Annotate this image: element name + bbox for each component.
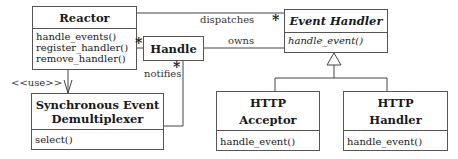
owns-multiplicity: *: [135, 37, 142, 49]
title-line: Demultiplexer: [52, 112, 144, 126]
class-reactor[interactable]: Reactor handle_events() register_handler…: [32, 6, 137, 70]
operation: handle_events(): [36, 31, 133, 42]
class-event-handler-operations: handle_event(): [285, 33, 387, 48]
class-http-handler-title: HTTP Handler: [344, 92, 447, 131]
title-line: Synchronous Event: [36, 98, 160, 112]
class-sync-event-demultiplexer[interactable]: Synchronous Event Demultiplexer select(): [31, 93, 164, 150]
title-line: HTTP: [250, 96, 286, 110]
class-http-handler[interactable]: HTTP Handler handle_event(): [343, 91, 448, 151]
class-handle[interactable]: Handle: [143, 36, 204, 61]
class-reactor-title: Reactor: [33, 7, 136, 29]
class-event-handler-title: Event Handler: [285, 10, 387, 33]
class-http-acceptor-operations: handle_event(): [217, 131, 319, 149]
dispatches-multiplicity: *: [272, 14, 279, 26]
operation: select(): [35, 134, 160, 145]
operation: handle_event(): [347, 136, 444, 147]
class-handle-title: Handle: [144, 37, 203, 60]
class-sync-demux-operations: select(): [32, 130, 163, 147]
owns-label: owns: [228, 35, 254, 46]
class-http-acceptor-title: HTTP Acceptor: [217, 92, 319, 131]
title-line: HTTP: [377, 96, 413, 110]
title-line: Handler: [369, 113, 421, 127]
operation: remove_handler(): [36, 53, 133, 64]
dispatches-label: dispatches: [200, 14, 254, 25]
title-line: Acceptor: [239, 113, 296, 127]
inheritance-triangle: [327, 53, 341, 65]
notifies-multiplicity: *: [173, 61, 180, 73]
class-sync-demux-title: Synchronous Event Demultiplexer: [32, 94, 163, 130]
operation: register_handler(): [36, 42, 133, 53]
operation: handle_event(): [288, 35, 384, 46]
class-http-acceptor[interactable]: HTTP Acceptor handle_event(): [216, 91, 320, 151]
class-reactor-operations: handle_events() register_handler() remov…: [33, 29, 136, 66]
inheritance-branch: [275, 78, 387, 91]
use-stereotype-label: <<use>>: [11, 77, 62, 88]
operation: handle_event(): [220, 136, 316, 147]
class-event-handler[interactable]: Event Handler handle_event(): [284, 9, 388, 53]
class-http-handler-operations: handle_event(): [344, 131, 447, 149]
